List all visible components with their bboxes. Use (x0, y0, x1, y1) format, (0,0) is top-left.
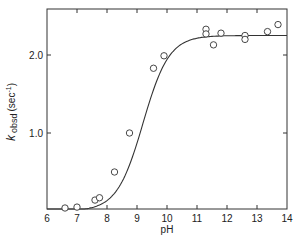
x-tick-label: 10 (161, 213, 173, 224)
x-tick-label: 6 (44, 213, 50, 224)
data-point-circle (275, 21, 281, 27)
x-axis-title: pH (161, 224, 174, 235)
plot-frame (47, 9, 287, 209)
x-tick-label: 8 (104, 213, 110, 224)
x-tick-label: 9 (134, 213, 140, 224)
fit-curve (47, 36, 287, 210)
chart: 67891011121314 1.02.0 pH kobsd(sec-1) (0, 0, 296, 242)
y-axis-title-k: k (4, 134, 18, 141)
y-axis-title-unit: (sec (6, 93, 17, 112)
data-point-circle (74, 204, 80, 210)
data-point-circle (264, 28, 270, 34)
x-tick-label: 7 (74, 213, 80, 224)
x-tick-label: 12 (221, 213, 233, 224)
data-point-circle (150, 65, 156, 71)
x-tick-label: 11 (192, 213, 203, 224)
data-point-circle (218, 30, 224, 36)
data-point-circle (242, 36, 248, 42)
y-tick-label: 1.0 (29, 128, 43, 139)
x-tick-label: 13 (251, 213, 263, 224)
data-point-circle (62, 205, 68, 211)
data-point-circle (203, 31, 209, 37)
svg-text:kobsd(sec-1): kobsd(sec-1) (4, 83, 19, 141)
y-axis-ticks: 1.02.0 (29, 50, 287, 139)
y-axis-title: kobsd(sec-1) (4, 83, 19, 141)
x-tick-label: 14 (281, 213, 293, 224)
x-axis-ticks: 67891011121314 (44, 9, 293, 224)
y-axis-title-close: ) (6, 83, 17, 86)
y-tick-label: 2.0 (29, 50, 43, 61)
data-point-circle (111, 169, 117, 175)
y-axis-title-sub: obsd (9, 113, 19, 133)
data-point-circle (126, 130, 132, 136)
data-point-circle (210, 42, 216, 48)
data-point-circle (96, 195, 102, 201)
data-point-circle (161, 53, 167, 59)
data-points (62, 21, 281, 211)
